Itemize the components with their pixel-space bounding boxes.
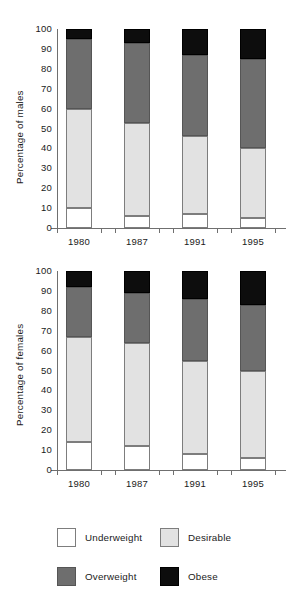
x-axis-tick (231, 471, 232, 475)
y-axis-tick-label: 40 (26, 143, 52, 153)
legend-swatch-underweight (57, 528, 76, 547)
x-axis-tick-label: 1991 (175, 237, 215, 247)
y-axis-tick-label: 0 (26, 223, 52, 233)
x-axis-tick-label: 1995 (233, 237, 273, 247)
bar-segment-desirable (182, 361, 208, 455)
y-axis-tick-label: 40 (26, 385, 52, 395)
y-axis-tick-label: 100 (26, 266, 52, 276)
y-axis-tick-label: 100 (26, 24, 52, 34)
bar-segment-obese (182, 29, 208, 55)
bar-segment-overweight (182, 299, 208, 361)
y-axis-tick-label: 60 (26, 346, 52, 356)
y-axis-tick-label: 0 (26, 465, 52, 475)
x-axis-tick (173, 471, 174, 475)
bar-segment-desirable (124, 343, 150, 446)
x-axis-tick (217, 229, 218, 233)
legend-swatch-obese (160, 567, 179, 586)
bar-segment-overweight (124, 293, 150, 343)
bar-segment-underweight (240, 458, 266, 470)
x-axis-tick-label: 1987 (117, 479, 157, 489)
stacked-bar-1980 (66, 271, 92, 470)
y-axis-tick-label: 20 (26, 425, 52, 435)
legend-swatch-overweight (57, 567, 76, 586)
bar-segment-overweight (240, 59, 266, 149)
x-axis-tick-label: 1995 (233, 479, 273, 489)
x-axis-tick (57, 229, 58, 233)
stacked-bar-1991 (182, 271, 208, 470)
y-axis-line (57, 271, 58, 471)
bar-segment-underweight (66, 442, 92, 470)
y-axis-tick-label: 60 (26, 104, 52, 114)
x-axis-line (51, 228, 286, 229)
y-axis-tick-label: 30 (26, 163, 52, 173)
legend-label: Overweight (85, 571, 137, 582)
legend-label: Desirable (188, 532, 231, 543)
x-axis-tick (173, 229, 174, 233)
legend-item-obese: Obese (160, 567, 218, 586)
y-axis-line (57, 29, 58, 229)
bar-segment-underweight (66, 208, 92, 228)
y-axis-tick-label: 90 (26, 286, 52, 296)
y-axis-tick-label: 80 (26, 306, 52, 316)
bar-segment-overweight (124, 43, 150, 123)
y-axis-tick-label: 80 (26, 64, 52, 74)
stacked-bar-1980 (66, 29, 92, 228)
bar-segment-underweight (124, 216, 150, 228)
bar-segment-overweight (66, 287, 92, 337)
x-axis-tick (159, 229, 160, 233)
bar-segment-desirable (182, 136, 208, 214)
legend-label: Underweight (85, 532, 142, 543)
bar-segment-desirable (66, 337, 92, 442)
legend-item-desirable: Desirable (160, 528, 231, 547)
x-axis-tick (101, 229, 102, 233)
bar-segment-obese (66, 271, 92, 287)
legend-label: Obese (188, 571, 218, 582)
x-axis-tick (275, 471, 276, 475)
bar-segment-desirable (66, 109, 92, 209)
bar-segment-desirable (240, 148, 266, 218)
bar-segment-overweight (240, 305, 266, 371)
x-axis-tick-label: 1987 (117, 237, 157, 247)
bar-segment-underweight (182, 214, 208, 228)
x-axis-tick (101, 471, 102, 475)
stacked-bar-1995 (240, 271, 266, 470)
x-axis-tick (159, 471, 160, 475)
y-axis-tick-label: 50 (26, 366, 52, 376)
x-axis-tick-label: 1980 (59, 237, 99, 247)
y-axis-tick-label: 90 (26, 44, 52, 54)
bar-segment-overweight (66, 39, 92, 109)
y-axis-tick-label: 20 (26, 183, 52, 193)
bar-segment-desirable (124, 123, 150, 217)
legend-item-overweight: Overweight (57, 567, 137, 586)
y-axis-tick-label: 70 (26, 84, 52, 94)
x-axis-tick (115, 471, 116, 475)
y-axis-tick-label: 10 (26, 203, 52, 213)
bar-segment-obese (124, 271, 150, 293)
bar-segment-obese (66, 29, 92, 39)
y-axis-tick-label: 50 (26, 124, 52, 134)
y-axis-tick-label: 70 (26, 326, 52, 336)
legend-swatch-desirable (160, 528, 179, 547)
bar-segment-desirable (240, 371, 266, 459)
x-axis-tick (275, 229, 276, 233)
legend-item-underweight: Underweight (57, 528, 142, 547)
bar-segment-obese (240, 29, 266, 59)
y-axis-title: Percentage of males (14, 90, 25, 184)
bar-segment-underweight (240, 218, 266, 228)
x-axis-tick-label: 1980 (59, 479, 99, 489)
y-axis-tick-label: 10 (26, 445, 52, 455)
y-axis-tick-label: 30 (26, 405, 52, 415)
stacked-bar-1991 (182, 29, 208, 228)
stacked-bar-1987 (124, 29, 150, 228)
stacked-bar-1987 (124, 271, 150, 470)
bar-segment-obese (240, 271, 266, 305)
y-axis-title: Percentage of females (14, 323, 25, 425)
x-axis-tick (115, 229, 116, 233)
bar-segment-underweight (182, 454, 208, 470)
bar-segment-obese (124, 29, 150, 43)
bar-segment-underweight (124, 446, 150, 470)
x-axis-tick (231, 229, 232, 233)
bar-segment-overweight (182, 55, 208, 137)
stacked-bar-1995 (240, 29, 266, 228)
bar-segment-obese (182, 271, 208, 299)
